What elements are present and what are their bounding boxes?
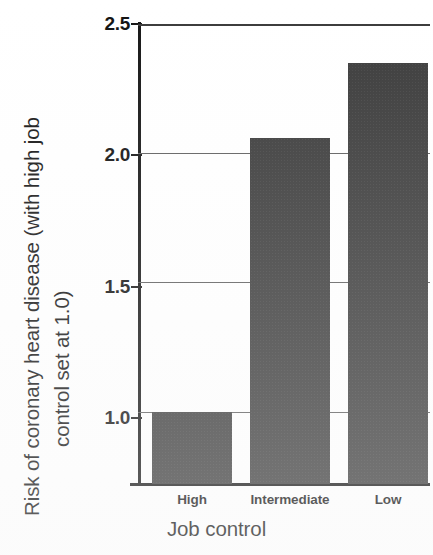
- x-axis-title: Job control: [0, 517, 433, 541]
- x-tick-label-low: Low: [328, 492, 433, 507]
- plot-area: [138, 24, 430, 484]
- y-tick-label-2-0: 2.0: [84, 144, 130, 166]
- y-axis-title-line-2: control set at 1.0): [50, 291, 74, 448]
- bar-high: [152, 412, 232, 484]
- y-axis-title-line-1: Risk of coronary heart disease (with hig…: [20, 117, 44, 516]
- bar-low: [348, 63, 428, 484]
- y-tick-label-1-0: 1.0: [84, 407, 130, 429]
- bar-chart-figure: Risk of coronary heart disease (with hig…: [0, 0, 433, 555]
- y-tick-label-2-5: 2.5: [84, 13, 130, 35]
- gridline-2-5: [138, 24, 430, 26]
- y-axis-title: Risk of coronary heart disease (with hig…: [0, 0, 86, 520]
- y-tick-label-1-5: 1.5: [84, 276, 130, 298]
- bar-intermediate: [250, 138, 330, 484]
